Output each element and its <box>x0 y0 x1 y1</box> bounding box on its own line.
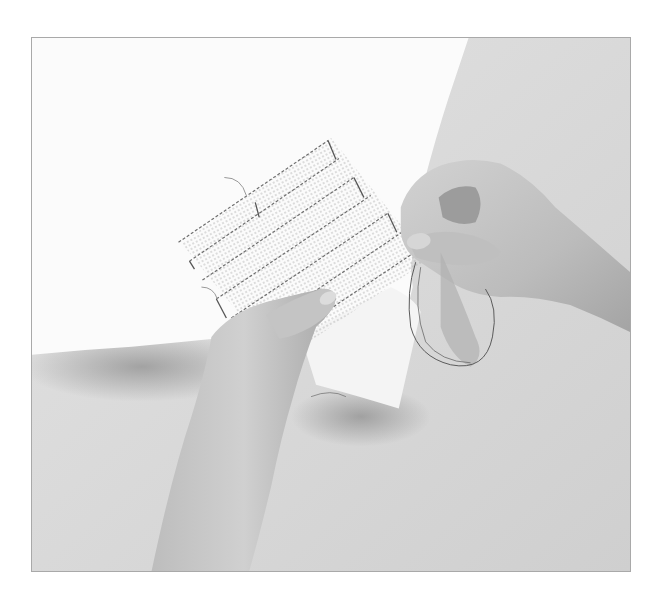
photo-frame <box>31 37 631 572</box>
photo-illustration <box>32 38 630 571</box>
